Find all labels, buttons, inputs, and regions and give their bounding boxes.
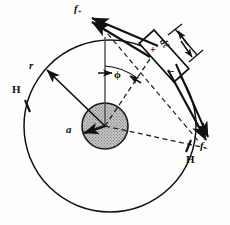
label-force-plus: f+	[74, 3, 82, 16]
label-angle-phi: ϕ	[114, 69, 121, 80]
label-field-H-left: H	[12, 84, 21, 95]
label-field-H-right: H	[186, 154, 195, 165]
label-radius-r: r	[29, 60, 33, 71]
label-pole-positive: +	[150, 45, 156, 55]
angle-arc-phi	[105, 66, 137, 78]
radius-arrow-r	[47, 70, 105, 126]
field-tick-right	[186, 140, 191, 152]
force-minus-vector-a	[168, 70, 206, 140]
diagram-canvas	[0, 0, 230, 225]
force-minus-vector-b	[176, 64, 208, 137]
physics-diagram-figure: f+ f− H H r a ϕ dℓ + −	[0, 0, 230, 225]
label-pole-negative: −	[168, 66, 174, 77]
label-force-minus: f−	[200, 140, 208, 153]
label-core-radius-a: a	[66, 124, 72, 135]
